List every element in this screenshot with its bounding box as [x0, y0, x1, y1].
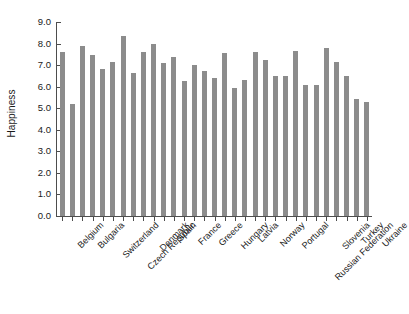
- bar: [334, 62, 339, 216]
- y-axis-tick-label: 0.0: [38, 210, 51, 221]
- x-axis-labels: BelgiumBulgariaSwitzerlandCzech Republic…: [57, 220, 388, 314]
- plot-area: 9.08.07.06.05.04.03.02.01.00.0: [57, 22, 372, 216]
- bar: [80, 46, 85, 216]
- bar: [60, 52, 65, 216]
- bar: [273, 76, 278, 216]
- bar: [131, 73, 136, 216]
- bar: [263, 60, 268, 216]
- y-axis-tick-label: 5.0: [38, 102, 51, 113]
- bar: [151, 44, 156, 216]
- bar: [293, 51, 298, 216]
- bar: [314, 85, 319, 216]
- y-axis-tick-label: 1.0: [38, 188, 51, 199]
- bar: [324, 48, 329, 216]
- bar: [212, 78, 217, 216]
- y-axis-line: [56, 22, 57, 216]
- bar: [253, 52, 258, 216]
- bar: [283, 76, 288, 216]
- y-axis-title: Happiness: [0, 0, 22, 226]
- y-axis-tick-mark: [57, 216, 61, 217]
- bar: [161, 63, 166, 216]
- bar: [242, 80, 247, 216]
- y-axis-tick-label: 3.0: [38, 145, 51, 156]
- y-axis-tick-mark: [57, 44, 61, 45]
- x-axis-tick-label: Spain: [174, 220, 197, 243]
- bar: [222, 53, 227, 216]
- y-axis-title-label: Happiness: [6, 89, 17, 137]
- bar: [344, 76, 349, 216]
- y-axis-tick-label: 2.0: [38, 167, 51, 178]
- bar: [110, 62, 115, 216]
- y-axis-tick-label: 6.0: [38, 81, 51, 92]
- bar: [100, 69, 105, 216]
- bar: [171, 57, 176, 217]
- bar: [192, 65, 197, 216]
- bar: [303, 85, 308, 216]
- bar: [70, 104, 75, 216]
- bar: [232, 88, 237, 216]
- bar: [121, 36, 126, 216]
- bar: [141, 52, 146, 216]
- y-axis-tick-label: 9.0: [38, 16, 51, 27]
- bar: [202, 71, 207, 217]
- bar: [364, 102, 369, 216]
- y-axis-tick-label: 8.0: [38, 38, 51, 49]
- bar: [354, 99, 359, 216]
- y-axis-tick-mark: [57, 22, 61, 23]
- bar: [90, 55, 95, 216]
- y-axis-tick-label: 4.0: [38, 124, 51, 135]
- bar: [182, 81, 187, 216]
- y-axis-tick-label: 7.0: [38, 59, 51, 70]
